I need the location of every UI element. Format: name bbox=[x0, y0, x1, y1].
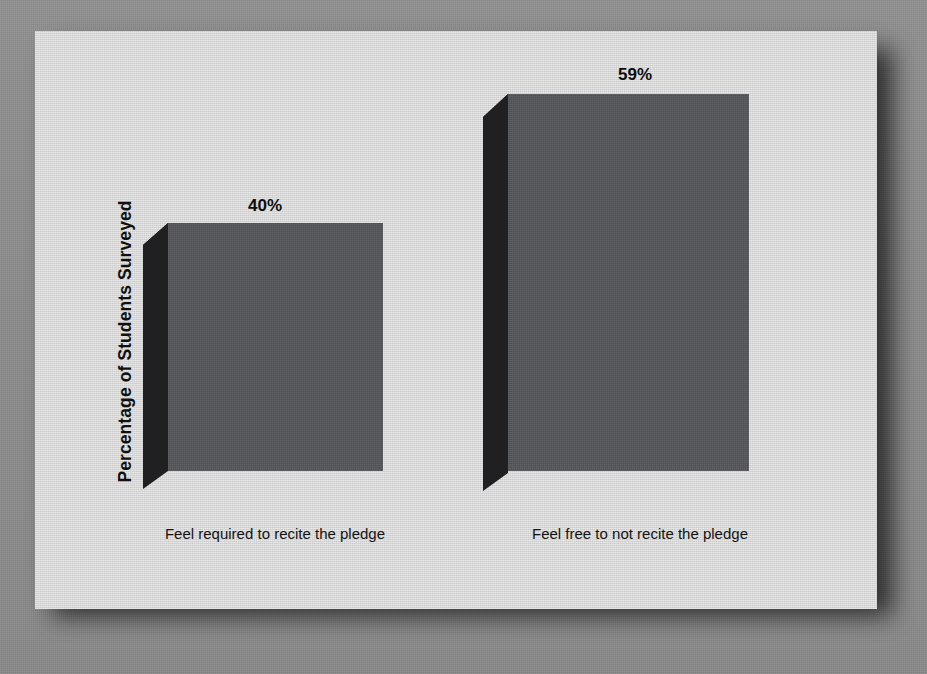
chart-canvas: Percentage of Students Surveyed 40% Feel… bbox=[0, 0, 927, 674]
bar-front-face-1 bbox=[168, 223, 383, 471]
chart-panel: Percentage of Students Surveyed 40% Feel… bbox=[35, 31, 877, 609]
bar-value-label-2: 59% bbox=[555, 65, 715, 85]
y-axis-title: Percentage of Students Surveyed bbox=[115, 192, 136, 492]
bar-value-label-1: 40% bbox=[185, 196, 345, 216]
bar-front-face-2 bbox=[508, 94, 749, 471]
bar-category-label-1: Feel required to recite the pledge bbox=[125, 525, 425, 542]
bar-category-label-2: Feel free to not recite the pledge bbox=[490, 525, 790, 542]
